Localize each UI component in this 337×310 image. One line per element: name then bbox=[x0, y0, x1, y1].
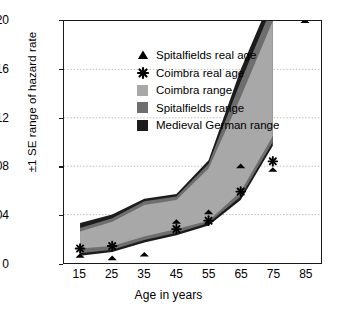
y-tick-mark bbox=[59, 264, 64, 265]
asterisk-core bbox=[239, 190, 242, 193]
triangle-marker-icon bbox=[135, 48, 150, 63]
legend-swatch-fill bbox=[137, 120, 148, 131]
legend-color-swatch bbox=[135, 118, 150, 133]
asterisk-core bbox=[111, 245, 114, 248]
legend-swatch-fill bbox=[137, 102, 148, 113]
y-tick-label: 0.04 bbox=[0, 209, 9, 221]
data-point-triangle bbox=[300, 21, 309, 23]
y-tick-label: 0.12 bbox=[0, 112, 9, 124]
legend-swatch-fill bbox=[137, 85, 148, 96]
x-axis-title: Age in years bbox=[0, 288, 337, 302]
legend-item: Medieval German range bbox=[135, 117, 310, 134]
y-tick-label: 0.08 bbox=[0, 160, 9, 172]
legend-color-swatch bbox=[135, 100, 150, 115]
asterisk-core bbox=[271, 160, 274, 163]
chart-legend: Spitalfields real ageCoimbra real ageCoi… bbox=[135, 47, 310, 134]
hazard-rate-chart-figure: ±1 SE range of hazard rate 00.040.080.12… bbox=[0, 0, 337, 310]
y-tick-label: 0.16 bbox=[0, 63, 9, 75]
asterisk-core bbox=[207, 219, 210, 222]
y-tick-label: 0.20 bbox=[0, 14, 9, 26]
y-tick-label: 0 bbox=[0, 258, 9, 270]
plot-area: Spitalfields real ageCoimbra real ageCoi… bbox=[63, 20, 322, 264]
data-point-triangle bbox=[268, 167, 277, 172]
legend-item-label: Coimbra range bbox=[156, 84, 232, 96]
legend-item: Spitalfields real age bbox=[135, 47, 310, 64]
legend-color-swatch bbox=[135, 83, 150, 98]
legend-item: Spitalfields range bbox=[135, 100, 310, 117]
asterisk-marker-icon bbox=[135, 65, 150, 80]
legend-item-label: Coimbra real age bbox=[156, 67, 244, 79]
legend-item: Coimbra range bbox=[135, 82, 310, 99]
legend-item: Coimbra real age bbox=[135, 65, 310, 82]
data-point-triangle bbox=[140, 252, 149, 257]
legend-item-label: Spitalfields range bbox=[156, 102, 244, 114]
legend-item-label: Medieval German range bbox=[156, 119, 279, 131]
data-point-triangle bbox=[108, 256, 117, 261]
x-tick-label: 85 bbox=[286, 268, 326, 281]
legend-item-label: Spitalfields real age bbox=[156, 49, 256, 61]
asterisk-core bbox=[79, 247, 82, 250]
asterisk-core bbox=[175, 228, 178, 231]
y-axis-title: ±1 SE range of hazard rate bbox=[26, 0, 38, 212]
